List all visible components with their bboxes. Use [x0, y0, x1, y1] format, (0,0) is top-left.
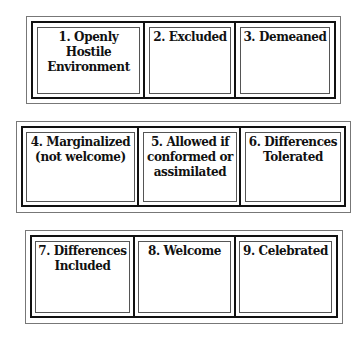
cell-label: 5. Allowed if conformed or assimilated	[144, 133, 236, 180]
cell-label: 4. Marginalized (not welcome)	[27, 133, 134, 165]
cell-label: 9. Celebrated	[240, 242, 331, 259]
cell-label: 8. Welcome	[139, 242, 230, 259]
cell-2-excluded: 2. Excluded	[149, 27, 231, 94]
cell-label: 6. Differences Tolerated	[246, 133, 340, 165]
cell-3-demeaned: 3. Demeaned	[240, 27, 330, 94]
cell-4-marginalized: 4. Marginalized (not welcome)	[26, 132, 135, 202]
row-3-divider-1	[133, 235, 135, 318]
cell-6-differences-tolerated: 6. Differences Tolerated	[245, 132, 341, 202]
cell-5-allowed-if-conformed: 5. Allowed if conformed or assimilated	[143, 132, 237, 202]
row-2-divider-2	[239, 126, 241, 207]
cell-label: 7. Differences Included	[36, 242, 129, 274]
cell-label: 3. Demeaned	[241, 28, 329, 45]
cell-9-celebrated: 9. Celebrated	[239, 241, 332, 313]
row-3-divider-2	[234, 235, 236, 318]
row-1-divider-2	[234, 21, 236, 99]
cell-label: 2. Excluded	[150, 28, 230, 45]
cell-7-differences-included: 7. Differences Included	[35, 241, 130, 313]
row-1-divider-1	[143, 21, 145, 99]
row-2-divider-1	[137, 126, 139, 207]
cell-8-welcome: 8. Welcome	[138, 241, 231, 313]
cell-1-openly-hostile: 1. Openly Hostile Environment	[37, 27, 140, 94]
cell-label: 1. Openly Hostile Environment	[38, 28, 139, 75]
